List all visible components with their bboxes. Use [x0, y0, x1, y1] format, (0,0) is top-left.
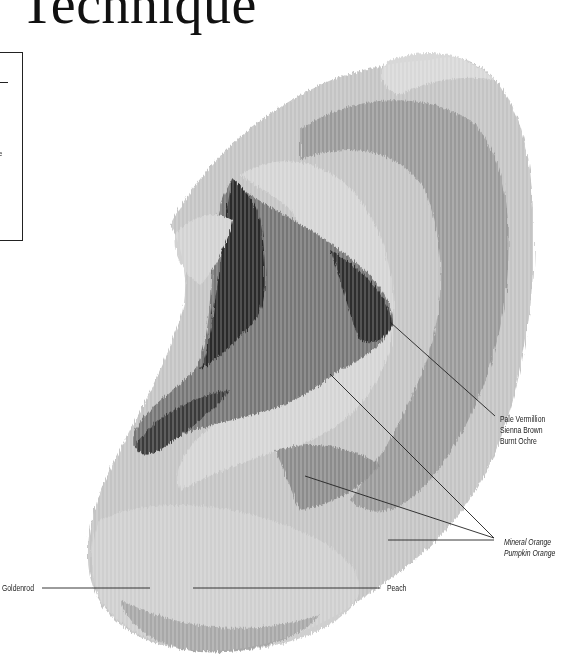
callout-line: Burnt Ochre [500, 435, 545, 446]
callout-mineral-orange: Mineral Orange Pumpkin Orange [504, 536, 555, 558]
callout-line: Mineral Orange [504, 536, 555, 547]
callout-line: Pale Vermillion [500, 413, 545, 424]
callout-pale-vermillion: Pale Vermillion Sienna Brown Burnt Ochre [500, 413, 545, 446]
callout-goldenrod: Goldenrod [2, 582, 34, 593]
callout-line: Pumpkin Orange [504, 547, 555, 558]
callout-line: Sienna Brown [500, 424, 545, 435]
callout-line: Goldenrod [2, 582, 34, 593]
hatch-overlay [88, 57, 534, 651]
ear-illustration [0, 0, 580, 672]
callout-line: Peach [387, 582, 406, 593]
callout-peach: Peach [387, 582, 406, 593]
